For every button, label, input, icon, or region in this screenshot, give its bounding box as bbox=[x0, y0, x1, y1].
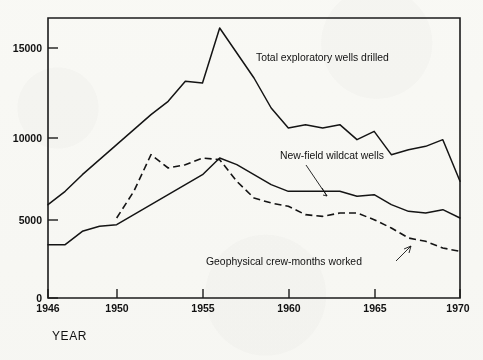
x-axis-tick-labels: 1946 1950 1955 1960 1965 1970 bbox=[36, 302, 470, 314]
x-tick-label-1970: 1970 bbox=[446, 302, 470, 314]
y-tick-label-5000: 5000 bbox=[19, 214, 43, 226]
x-tick-label-1955: 1955 bbox=[191, 302, 215, 314]
figure-container: 0 5000 10000 15000 1946 1950 1955 1960 1… bbox=[0, 0, 483, 360]
series-line-total-exploratory-wells-drilled bbox=[48, 28, 460, 205]
series-line-new-field-wildcat-wells bbox=[48, 158, 460, 245]
line-chart: 0 5000 10000 15000 1946 1950 1955 1960 1… bbox=[0, 0, 483, 360]
x-axis-title: YEAR bbox=[52, 329, 87, 343]
y-axis-tick-labels: 0 5000 10000 15000 bbox=[13, 42, 42, 304]
y-tick-label-10000: 10000 bbox=[13, 132, 42, 144]
series-label-new-field-wildcat: New-field wildcat wells bbox=[280, 150, 384, 161]
x-tick-label-1950: 1950 bbox=[105, 302, 129, 314]
x-tick-label-1946: 1946 bbox=[36, 302, 60, 314]
y-axis-ticks bbox=[48, 48, 58, 298]
x-tick-label-1965: 1965 bbox=[363, 302, 387, 314]
series-label-geophysical-crew-months: Geophysical crew-months worked bbox=[206, 256, 362, 267]
x-axis-ticks bbox=[48, 289, 460, 298]
y-tick-label-15000: 15000 bbox=[13, 42, 42, 54]
leader-arrow-geophysical bbox=[396, 246, 411, 261]
series-label-total-exploratory: Total exploratory wells drilled bbox=[256, 52, 389, 63]
x-tick-label-1960: 1960 bbox=[277, 302, 301, 314]
series-line-geophysical-crew-months-worked bbox=[117, 155, 460, 252]
